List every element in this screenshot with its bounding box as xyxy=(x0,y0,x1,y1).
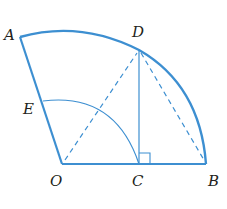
label-A: A xyxy=(2,26,15,44)
label-O: O xyxy=(50,172,62,190)
label-E: E xyxy=(22,100,34,118)
right-angle-mark xyxy=(139,153,150,164)
dashed-segment-OD xyxy=(65,53,137,160)
inner-arc-EC xyxy=(43,100,139,164)
outer-arc-ADB xyxy=(20,31,206,164)
label-C: C xyxy=(132,172,144,190)
geometry-diagram: A D E O C B xyxy=(0,0,227,209)
dashed-segment-DB xyxy=(141,53,204,160)
label-B: B xyxy=(207,172,219,190)
label-D: D xyxy=(131,23,144,41)
